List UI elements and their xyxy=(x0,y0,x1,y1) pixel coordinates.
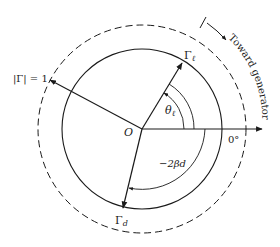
toward-generator-tick xyxy=(200,17,206,28)
center-label: O xyxy=(124,126,133,139)
phase-shift-label: −2βd xyxy=(159,158,186,169)
toward-generator-arrow xyxy=(207,23,226,40)
gamma-input-arrow xyxy=(123,129,142,208)
theta-load-label: θℓ xyxy=(165,104,176,118)
unit-circle-label: |Γ| = 1 xyxy=(13,73,48,85)
gamma-load-label: Γℓ xyxy=(184,49,196,63)
unit-radius-arrow xyxy=(50,80,142,129)
theta-load-arc-outer xyxy=(169,84,194,129)
toward-generator-label: Toward generator xyxy=(227,32,272,120)
reference-angle-label: 0° xyxy=(228,134,239,145)
gamma-input-label: Γd xyxy=(115,214,128,228)
gamma-load-arrow xyxy=(142,63,182,129)
reflection-coefficient-diagram: O |Γ| = 1 Γℓ Γd θℓ −2βd 0° Toward genera… xyxy=(0,0,280,247)
